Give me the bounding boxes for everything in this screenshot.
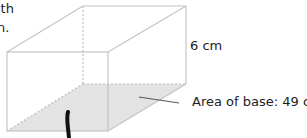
rectangular-prism-diagram — [0, 0, 307, 138]
base-shading — [7, 84, 186, 131]
pen-stroke — [67, 112, 69, 138]
intro-text-line-2: n. — [0, 20, 9, 35]
intro-text-line-1: ith — [0, 1, 14, 16]
base-area-text: Area of base: 49 cm — [192, 94, 307, 109]
base-area-label: Area of base: 49 cm2 — [192, 90, 307, 109]
height-label: 6 cm — [190, 38, 222, 53]
